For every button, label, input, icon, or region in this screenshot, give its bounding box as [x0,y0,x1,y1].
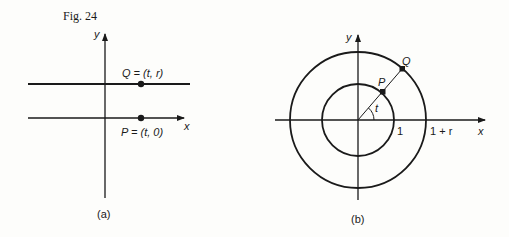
angle-label: t [375,102,379,114]
panel-a: y x Q = (t, r) P = (t, 0) (a) [28,28,190,220]
point-p [380,89,386,95]
point-p-label: P = (t, 0) [121,126,163,138]
y-axis-label: y [345,31,353,43]
point-q-label: Q [402,55,411,67]
point-p [138,115,144,121]
angle-arc [369,108,375,120]
y-axis-label: y [93,28,101,40]
point-p-label: P [378,76,386,88]
figure-canvas: Fig. 24 y x Q = (t, r) P = (t, 0) (a) y … [0,0,509,237]
panel-b: y x t P Q 1 1 + r (b) [275,31,485,225]
inner-radius-label: 1 [397,125,403,137]
point-q-label: Q = (t, r) [122,67,164,79]
figure-label: Fig. 24 [63,9,97,23]
caption-a: (a) [97,208,110,220]
caption-b: (b) [351,213,364,225]
outer-radius-label: 1 + r [430,125,453,137]
point-q [138,81,144,87]
x-axis-label: x [477,125,484,137]
x-axis-label: x [183,120,190,132]
